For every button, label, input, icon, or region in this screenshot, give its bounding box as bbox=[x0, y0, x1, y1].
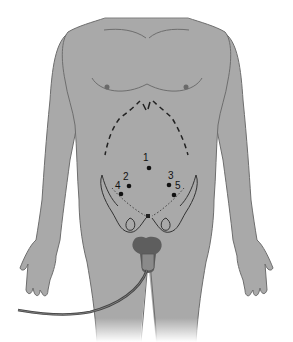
left-nipple bbox=[105, 85, 110, 90]
port-label-1: 1 bbox=[143, 153, 149, 163]
port-2-dot bbox=[127, 184, 132, 189]
anatomy-diagram bbox=[0, 0, 293, 342]
port-label-2: 2 bbox=[123, 172, 129, 182]
port-3-dot bbox=[167, 183, 172, 188]
port-label-3: 3 bbox=[168, 171, 174, 181]
port-5-dot bbox=[172, 193, 177, 198]
port-label-5: 5 bbox=[175, 181, 181, 191]
port-1-dot bbox=[147, 166, 152, 171]
right-nipple bbox=[184, 85, 189, 90]
port-4-dot bbox=[119, 192, 124, 197]
port-label-4: 4 bbox=[115, 181, 121, 191]
